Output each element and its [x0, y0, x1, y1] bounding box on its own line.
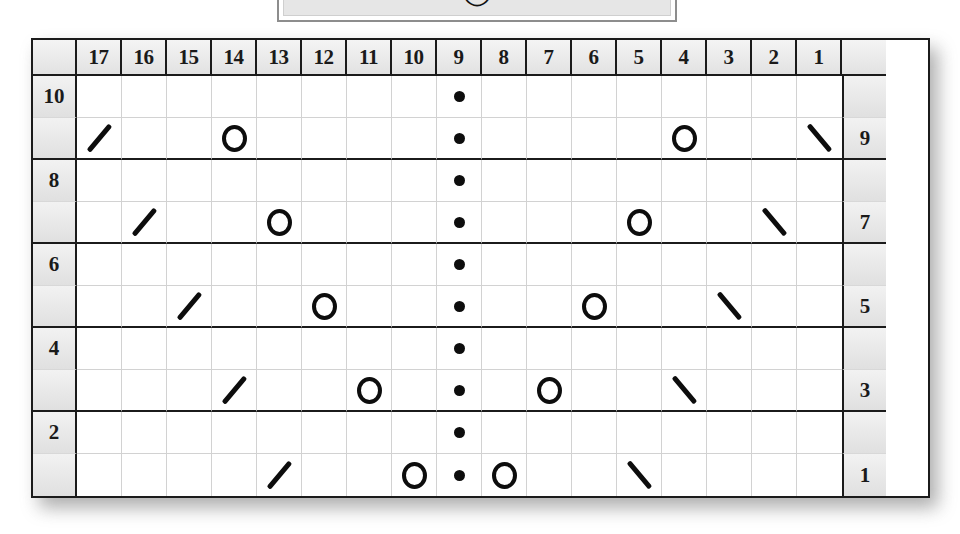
chart-cell-r1-c13[interactable] — [257, 454, 302, 496]
chart-cell-r6-c16[interactable] — [122, 244, 167, 286]
chart-cell-r7-c7[interactable] — [527, 202, 572, 244]
chart-cell-r1-c10[interactable] — [392, 454, 437, 496]
chart-cell-r9-c11[interactable] — [347, 118, 392, 160]
chart-cell-r3-c12[interactable] — [302, 370, 347, 412]
chart-cell-r7-c14[interactable] — [212, 202, 257, 244]
chart-cell-r9-c6[interactable] — [572, 118, 617, 160]
chart-cell-r7-c1[interactable] — [797, 202, 842, 244]
chart-cell-r6-c12[interactable] — [302, 244, 347, 286]
chart-cell-r2-c14[interactable] — [212, 412, 257, 454]
chart-cell-r4-c12[interactable] — [302, 328, 347, 370]
chart-cell-r5-c12[interactable] — [302, 286, 347, 328]
chart-cell-r2-c9[interactable] — [437, 412, 482, 454]
chart-cell-r10-c13[interactable] — [257, 76, 302, 118]
chart-cell-r2-c7[interactable] — [527, 412, 572, 454]
chart-cell-r9-c5[interactable] — [617, 118, 662, 160]
chart-cell-r5-c17[interactable] — [77, 286, 122, 328]
chart-cell-r2-c15[interactable] — [167, 412, 212, 454]
chart-cell-r4-c8[interactable] — [482, 328, 527, 370]
chart-cell-r2-c6[interactable] — [572, 412, 617, 454]
chart-cell-r5-c7[interactable] — [527, 286, 572, 328]
chart-cell-r6-c1[interactable] — [797, 244, 842, 286]
chart-cell-r2-c2[interactable] — [752, 412, 797, 454]
chart-cell-r6-c9[interactable] — [437, 244, 482, 286]
chart-cell-r3-c4[interactable] — [662, 370, 707, 412]
chart-cell-r8-c14[interactable] — [212, 160, 257, 202]
chart-cell-r5-c16[interactable] — [122, 286, 167, 328]
chart-cell-r3-c17[interactable] — [77, 370, 122, 412]
chart-cell-r1-c6[interactable] — [572, 454, 617, 496]
chart-cell-r1-c11[interactable] — [347, 454, 392, 496]
chart-cell-r3-c15[interactable] — [167, 370, 212, 412]
chart-cell-r4-c17[interactable] — [77, 328, 122, 370]
chart-cell-r5-c15[interactable] — [167, 286, 212, 328]
chart-cell-r7-c3[interactable] — [707, 202, 752, 244]
chart-cell-r10-c15[interactable] — [167, 76, 212, 118]
chart-cell-r9-c2[interactable] — [752, 118, 797, 160]
chart-cell-r2-c4[interactable] — [662, 412, 707, 454]
chart-cell-r5-c3[interactable] — [707, 286, 752, 328]
chart-cell-r2-c8[interactable] — [482, 412, 527, 454]
chart-cell-r3-c10[interactable] — [392, 370, 437, 412]
chart-cell-r9-c12[interactable] — [302, 118, 347, 160]
chart-cell-r4-c7[interactable] — [527, 328, 572, 370]
chart-cell-r6-c5[interactable] — [617, 244, 662, 286]
chart-cell-r6-c15[interactable] — [167, 244, 212, 286]
chart-cell-r3-c2[interactable] — [752, 370, 797, 412]
chart-cell-r1-c2[interactable] — [752, 454, 797, 496]
chart-cell-r9-c9[interactable] — [437, 118, 482, 160]
chart-cell-r1-c1[interactable] — [797, 454, 842, 496]
chart-cell-r10-c17[interactable] — [77, 76, 122, 118]
chart-cell-r8-c3[interactable] — [707, 160, 752, 202]
chart-cell-r9-c13[interactable] — [257, 118, 302, 160]
chart-cell-r4-c4[interactable] — [662, 328, 707, 370]
chart-cell-r5-c5[interactable] — [617, 286, 662, 328]
chart-cell-r5-c1[interactable] — [797, 286, 842, 328]
chart-cell-r1-c9[interactable] — [437, 454, 482, 496]
chart-cell-r10-c3[interactable] — [707, 76, 752, 118]
chart-cell-r6-c8[interactable] — [482, 244, 527, 286]
chart-cell-r4-c6[interactable] — [572, 328, 617, 370]
chart-cell-r8-c7[interactable] — [527, 160, 572, 202]
chart-cell-r9-c7[interactable] — [527, 118, 572, 160]
chart-cell-r1-c5[interactable] — [617, 454, 662, 496]
chart-cell-r5-c9[interactable] — [437, 286, 482, 328]
chart-cell-r9-c14[interactable] — [212, 118, 257, 160]
chart-cell-r2-c12[interactable] — [302, 412, 347, 454]
chart-cell-r7-c13[interactable] — [257, 202, 302, 244]
chart-cell-r7-c17[interactable] — [77, 202, 122, 244]
chart-cell-r5-c4[interactable] — [662, 286, 707, 328]
chart-cell-r9-c10[interactable] — [392, 118, 437, 160]
chart-cell-r4-c1[interactable] — [797, 328, 842, 370]
chart-cell-r6-c3[interactable] — [707, 244, 752, 286]
chart-cell-r4-c11[interactable] — [347, 328, 392, 370]
chart-cell-r8-c6[interactable] — [572, 160, 617, 202]
chart-cell-r1-c14[interactable] — [212, 454, 257, 496]
chart-cell-r9-c4[interactable] — [662, 118, 707, 160]
chart-cell-r7-c16[interactable] — [122, 202, 167, 244]
chart-cell-r6-c7[interactable] — [527, 244, 572, 286]
chart-cell-r10-c1[interactable] — [797, 76, 842, 118]
chart-cell-r2-c3[interactable] — [707, 412, 752, 454]
chart-cell-r1-c7[interactable] — [527, 454, 572, 496]
chart-cell-r7-c15[interactable] — [167, 202, 212, 244]
chart-cell-r6-c13[interactable] — [257, 244, 302, 286]
chart-cell-r2-c13[interactable] — [257, 412, 302, 454]
chart-cell-r3-c16[interactable] — [122, 370, 167, 412]
chart-cell-r5-c13[interactable] — [257, 286, 302, 328]
chart-cell-r10-c6[interactable] — [572, 76, 617, 118]
chart-cell-r8-c9[interactable] — [437, 160, 482, 202]
chart-cell-r6-c4[interactable] — [662, 244, 707, 286]
chart-cell-r9-c15[interactable] — [167, 118, 212, 160]
chart-cell-r2-c1[interactable] — [797, 412, 842, 454]
chart-cell-r4-c16[interactable] — [122, 328, 167, 370]
chart-cell-r3-c13[interactable] — [257, 370, 302, 412]
chart-cell-r1-c3[interactable] — [707, 454, 752, 496]
chart-cell-r4-c13[interactable] — [257, 328, 302, 370]
chart-cell-r6-c2[interactable] — [752, 244, 797, 286]
chart-cell-r2-c5[interactable] — [617, 412, 662, 454]
chart-cell-r10-c5[interactable] — [617, 76, 662, 118]
chart-cell-r7-c11[interactable] — [347, 202, 392, 244]
chart-cell-r3-c11[interactable] — [347, 370, 392, 412]
chart-cell-r7-c6[interactable] — [572, 202, 617, 244]
